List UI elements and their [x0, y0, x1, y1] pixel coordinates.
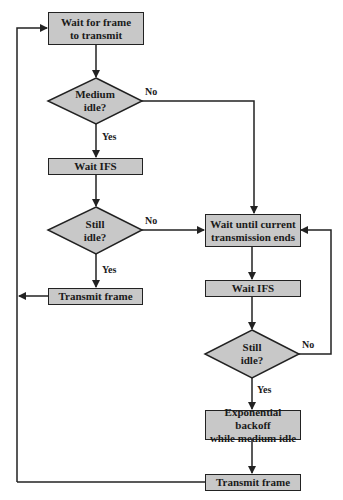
node-text: Still — [241, 341, 264, 354]
process-wait-ifs-2: Wait IFS — [205, 280, 301, 297]
edge-label-medium-yes: Yes — [102, 131, 116, 142]
process-wait-ifs-1: Wait IFS — [48, 158, 143, 175]
node-text: idle? — [84, 231, 107, 244]
process-exponential-backoff: Exponential backoff while medium idle — [205, 410, 301, 440]
edge-label-medium-no: No — [145, 86, 157, 97]
node-text: Transmit frame — [58, 290, 132, 303]
node-text: Wait IFS — [232, 282, 274, 295]
node-text: transmission ends — [210, 231, 295, 244]
node-text: Exponential backoff — [206, 406, 300, 432]
arrow-medium-no — [142, 101, 254, 213]
node-text: to transmit — [61, 29, 131, 42]
node-text: Medium — [75, 88, 115, 101]
edge-label-still1-yes: Yes — [102, 264, 116, 275]
decision-still-idle-1: Still idle? — [48, 207, 142, 254]
node-text: Still — [84, 218, 107, 231]
arrow-loop-to-frame — [17, 28, 47, 482]
process-wait-for-frame: Wait for frame to transmit — [48, 12, 144, 45]
decision-medium-idle: Medium idle? — [48, 78, 142, 124]
node-text: while medium idle — [206, 432, 300, 445]
process-wait-until-current: Wait until current transmission ends — [205, 214, 301, 247]
node-text: Wait for frame — [61, 16, 131, 29]
node-text: Transmit frame — [216, 476, 290, 489]
decision-still-idle-2: Still idle? — [205, 330, 299, 378]
edge-label-still1-no: No — [145, 215, 157, 226]
edge-label-still2-yes: Yes — [257, 384, 271, 395]
process-transmit-frame-2: Transmit frame — [205, 474, 301, 491]
node-text: Wait IFS — [74, 160, 116, 173]
node-text: idle? — [241, 354, 264, 367]
node-text: idle? — [75, 101, 115, 114]
process-transmit-frame-1: Transmit frame — [48, 288, 143, 305]
edge-label-still2-no: No — [302, 339, 314, 350]
arrow-still2-no — [299, 230, 331, 354]
node-text: Wait until current — [210, 218, 295, 231]
